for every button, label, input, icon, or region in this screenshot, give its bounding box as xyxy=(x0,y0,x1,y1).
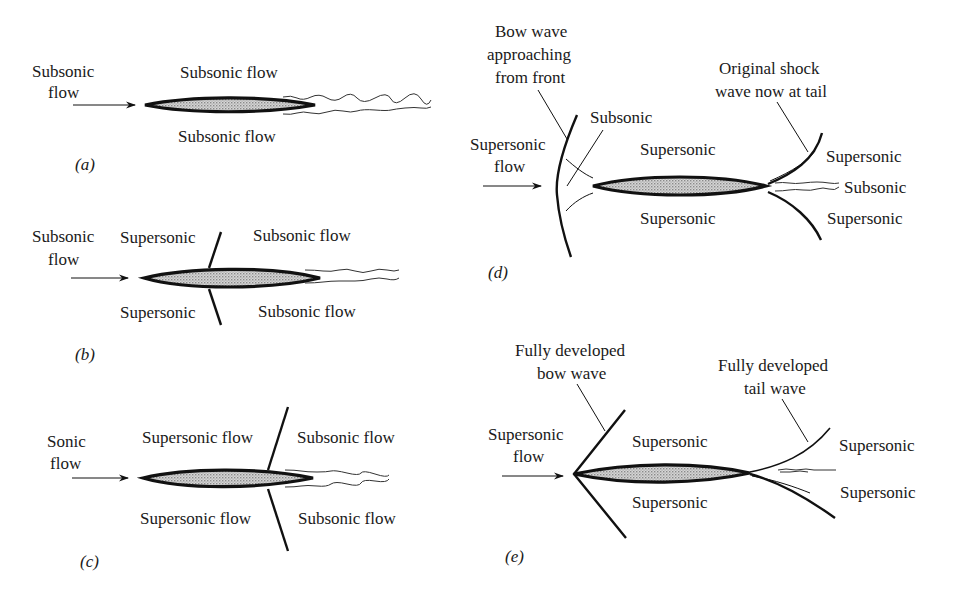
tail-shock-upper xyxy=(768,133,822,184)
lower-right-label: Subsonic flow xyxy=(298,509,396,528)
bow-callout-line2: approaching xyxy=(487,45,572,64)
airfoil xyxy=(593,177,766,195)
panel-label-c: (c) xyxy=(80,552,99,571)
upper-right-label: Subsonic flow xyxy=(253,226,351,245)
tail-wake-label: Subsonic xyxy=(844,178,907,197)
tail-lower-label: Supersonic xyxy=(827,209,903,228)
freestream-label-line1: Subsonic xyxy=(32,62,95,81)
lower-flow-label: Supersonic xyxy=(640,209,716,228)
freestream-label-line1: Subsonic xyxy=(32,227,95,246)
tail-callout-leader xyxy=(782,399,808,442)
transonic-flow-diagram: Subsonic flow Subsonic flow Subsonic flo… xyxy=(0,0,954,596)
upper-flow-label: Supersonic xyxy=(632,432,708,451)
sonic-line-upper xyxy=(566,159,593,178)
shock-wave-lower xyxy=(268,489,288,551)
tail-callout-line2: wave now at tail xyxy=(715,82,827,101)
tail-shock-upper xyxy=(750,428,830,472)
airfoil xyxy=(144,269,320,287)
bow-callout-line2: bow wave xyxy=(537,364,606,383)
shock-wave-upper xyxy=(268,407,288,470)
freestream-label-line2: flow xyxy=(494,157,526,176)
tail-callout-line2: tail wave xyxy=(744,379,806,398)
panel-a: Subsonic flow Subsonic flow Subsonic flo… xyxy=(32,62,431,174)
freestream-label-line1: Supersonic xyxy=(488,425,564,444)
panel-e: Fully developed bow wave Fully developed… xyxy=(488,341,916,566)
panel-c: Sonic flow Supersonic flow Supersonic fl… xyxy=(47,407,396,571)
tail-shock-lower xyxy=(768,192,821,240)
panel-label-b: (b) xyxy=(75,345,95,364)
lower-flow-label: Supersonic xyxy=(632,493,708,512)
lower-left-label: Supersonic flow xyxy=(140,509,252,528)
airfoil xyxy=(574,465,750,482)
airfoil xyxy=(145,98,315,112)
lower-flow-label: Subsonic flow xyxy=(178,127,276,146)
freestream-label-line1: Sonic xyxy=(47,432,86,451)
tail-callout-line1: Fully developed xyxy=(718,356,829,375)
wake-upper-line xyxy=(305,269,399,272)
freestream-label-line1: Supersonic xyxy=(470,135,546,154)
upper-right-label: Subsonic flow xyxy=(297,428,395,447)
upper-flow-label: Subsonic flow xyxy=(180,63,278,82)
bow-callout-line3: from front xyxy=(495,68,566,87)
freestream-label-line2: flow xyxy=(48,83,80,102)
wake-line xyxy=(778,469,836,470)
tail-callout-line1: Original shock xyxy=(719,59,820,78)
bow-callout-leader xyxy=(538,90,567,139)
tail-lower-label: Supersonic xyxy=(840,483,916,502)
bow-callout-leader xyxy=(577,384,605,431)
tail-upper-label: Supersonic xyxy=(826,147,902,166)
shock-wave-lower xyxy=(209,289,221,325)
sonic-line-lower xyxy=(566,193,593,211)
bow-wave xyxy=(557,115,577,257)
freestream-label-line2: flow xyxy=(513,447,545,466)
airfoil xyxy=(143,470,313,487)
panel-d: Bow wave approaching from front Superson… xyxy=(470,22,907,282)
tail-shock-lower xyxy=(750,474,835,518)
upper-left-label: Supersonic flow xyxy=(142,428,254,447)
freestream-label-line2: flow xyxy=(48,250,80,269)
freestream-label-line2: flow xyxy=(50,454,82,473)
panel-label-a: (a) xyxy=(75,155,95,174)
wake-lower-line xyxy=(775,187,839,191)
bow-callout-line1: Bow wave xyxy=(495,22,567,41)
panel-b: Subsonic flow Supersonic Supersonic Subs… xyxy=(32,226,399,364)
panel-label-e: (e) xyxy=(505,547,524,566)
upper-left-label: Supersonic xyxy=(120,228,196,247)
upper-flow-label: Supersonic xyxy=(640,140,716,159)
lower-right-label: Subsonic flow xyxy=(258,302,356,321)
tail-callout-leader xyxy=(777,102,808,152)
tail-upper-label: Supersonic xyxy=(839,436,915,455)
bow-callout-line1: Fully developed xyxy=(515,341,626,360)
lower-left-label: Supersonic xyxy=(120,303,196,322)
subsonic-callout-leader xyxy=(567,130,603,186)
nose-region-label: Subsonic xyxy=(590,108,653,127)
tail-shock-upper-inner xyxy=(770,151,815,181)
shock-wave-upper xyxy=(209,232,221,268)
panel-label-d: (d) xyxy=(488,263,508,282)
wake-upper-line xyxy=(775,182,839,184)
wake-line-2 xyxy=(780,471,808,472)
